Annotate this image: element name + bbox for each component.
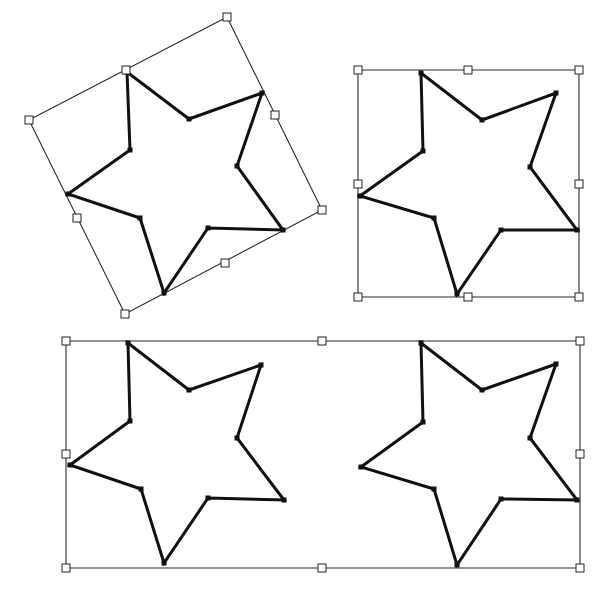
- star-vertex-point[interactable]: [455, 563, 460, 568]
- selection-bounding-box: [66, 341, 580, 568]
- resize-handle[interactable]: [223, 13, 231, 21]
- star-vertex-point[interactable]: [128, 148, 133, 153]
- resize-handle[interactable]: [271, 111, 279, 119]
- star-vertex-point[interactable]: [432, 487, 437, 492]
- star-vertex-point[interactable]: [419, 71, 424, 76]
- star-vertex-point[interactable]: [575, 228, 580, 233]
- resize-handle[interactable]: [62, 337, 70, 345]
- star-vertex-point[interactable]: [138, 216, 143, 221]
- resize-handle[interactable]: [221, 259, 229, 267]
- resize-handle[interactable]: [122, 66, 130, 74]
- star-vertex-point[interactable]: [575, 498, 580, 503]
- star-vertex-point[interactable]: [421, 420, 426, 425]
- star-vertex-point[interactable]: [554, 362, 559, 367]
- star-vertex-point[interactable]: [281, 228, 286, 233]
- star-vertex-point[interactable]: [66, 192, 71, 197]
- star-shape[interactable]: [360, 73, 577, 294]
- star-shape-2[interactable]: [361, 343, 577, 565]
- star-vertex-point[interactable]: [206, 226, 211, 231]
- resize-handle[interactable]: [354, 293, 362, 301]
- resize-handle[interactable]: [62, 450, 70, 458]
- star-vertex-point[interactable]: [499, 228, 504, 233]
- resize-handle[interactable]: [318, 206, 326, 214]
- resize-handle[interactable]: [576, 564, 584, 572]
- resize-handle[interactable]: [73, 214, 81, 222]
- star-vertex-point[interactable]: [235, 164, 240, 169]
- star-vertex-point[interactable]: [358, 194, 363, 199]
- star-vertex-point[interactable]: [432, 216, 437, 221]
- star-vertex-point[interactable]: [162, 291, 167, 296]
- resize-handle[interactable]: [575, 66, 583, 74]
- star-vertex-point[interactable]: [554, 91, 559, 96]
- resize-handle[interactable]: [354, 66, 362, 74]
- resize-handle[interactable]: [575, 180, 583, 188]
- star-vertex-point[interactable]: [528, 165, 533, 170]
- resize-handle[interactable]: [575, 293, 583, 301]
- star-vertex-point[interactable]: [128, 419, 133, 424]
- resize-handle[interactable]: [464, 293, 472, 301]
- star-vertex-point[interactable]: [259, 363, 264, 368]
- star-vertex-point[interactable]: [235, 436, 240, 441]
- star-shape-1[interactable]: [70, 343, 284, 563]
- star-vertex-point[interactable]: [68, 463, 73, 468]
- resize-handle[interactable]: [318, 564, 326, 572]
- selection-bounding-box: [29, 17, 322, 314]
- star-vertex-point[interactable]: [139, 487, 144, 492]
- resize-handle[interactable]: [62, 564, 70, 572]
- star-vertex-point[interactable]: [421, 149, 426, 154]
- star-vertex-point[interactable]: [419, 341, 424, 346]
- star-vertex-point[interactable]: [260, 91, 265, 96]
- star-vertex-point[interactable]: [206, 496, 211, 501]
- star-vertex-point[interactable]: [499, 497, 504, 502]
- diagram-canvas: [0, 0, 604, 594]
- star-vertex-point[interactable]: [359, 465, 364, 470]
- star-vertex-point[interactable]: [480, 388, 485, 393]
- star-vertex-point[interactable]: [480, 118, 485, 123]
- star-vertex-point[interactable]: [455, 292, 460, 297]
- resize-handle[interactable]: [318, 337, 326, 345]
- star-vertex-point[interactable]: [187, 388, 192, 393]
- resize-handle[interactable]: [25, 116, 33, 124]
- axis-aligned-star-figure[interactable]: [354, 66, 583, 301]
- star-vertex-point[interactable]: [162, 561, 167, 566]
- star-vertex-point[interactable]: [282, 498, 287, 503]
- resize-handle[interactable]: [464, 66, 472, 74]
- star-vertex-point[interactable]: [528, 436, 533, 441]
- resize-handle[interactable]: [576, 337, 584, 345]
- star-vertex-point[interactable]: [187, 117, 192, 122]
- star-vertex-point[interactable]: [126, 341, 131, 346]
- resize-handle[interactable]: [576, 450, 584, 458]
- rotated-star-figure[interactable]: [25, 13, 326, 318]
- group-selection-figure[interactable]: [62, 337, 584, 572]
- star-shape[interactable]: [68, 72, 283, 293]
- resize-handle[interactable]: [354, 180, 362, 188]
- selection-bounding-box: [358, 70, 579, 297]
- resize-handle[interactable]: [121, 310, 129, 318]
